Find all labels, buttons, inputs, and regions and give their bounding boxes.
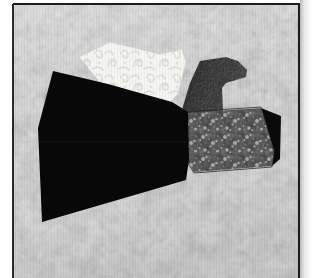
scan-banding [14, 5, 298, 278]
quilt-block-image [0, 0, 320, 278]
quilt-block-artwork [0, 0, 320, 278]
